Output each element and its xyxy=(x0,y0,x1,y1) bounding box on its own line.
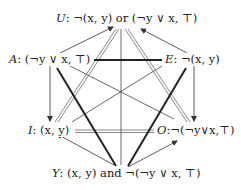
node-O: O:¬(¬y∨x,⊤) xyxy=(156,124,235,137)
hexagon-diagram: U: ¬(x, y) or (¬y ∨ x, ⊤) A: (¬y ∨ x, ⊤)… xyxy=(0,0,241,190)
edge-I-O xyxy=(75,130,154,133)
node-I-formula: : (x, y) xyxy=(33,123,70,137)
edge-A-Y xyxy=(57,68,116,166)
edge-U-O xyxy=(125,29,190,122)
node-O-formula: :¬(¬y∨x,⊤) xyxy=(166,123,234,137)
edges-layer xyxy=(0,0,241,190)
arrow-E-U xyxy=(141,29,187,53)
node-U-formula: : ¬(x, y) or (¬y ∨ x, ⊤) xyxy=(66,11,198,25)
node-A: A: (¬y ∨ x, ⊤) xyxy=(8,53,91,66)
node-E-formula: : ¬(x, y) xyxy=(173,52,219,66)
arrow-A-U xyxy=(60,27,113,53)
node-E: E: ¬(x, y) xyxy=(164,53,221,66)
node-U-letter: U xyxy=(56,11,66,25)
node-Y-letter: Y xyxy=(52,166,60,180)
node-A-formula: : (¬y ∨ x, ⊤) xyxy=(17,52,90,66)
node-I: I: (x, y) xyxy=(27,124,70,137)
node-Y: Y: (x, y) and ¬(¬y ∨ x, ⊤) xyxy=(51,167,201,180)
node-Y-formula: : (x, y) and ¬(¬y ∨ x, ⊤) xyxy=(60,166,201,180)
edge-U-I xyxy=(55,29,119,122)
edge-A-O xyxy=(70,66,174,119)
node-U: U: ¬(x, y) or (¬y ∨ x, ⊤) xyxy=(55,12,198,25)
